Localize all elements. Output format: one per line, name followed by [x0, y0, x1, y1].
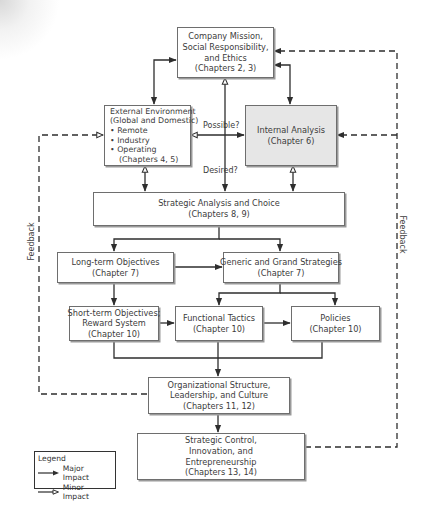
minor-arrow-icon	[38, 489, 60, 495]
node-text: Internal Analysis	[257, 125, 325, 136]
feedback-label-right: Feedback	[398, 215, 407, 253]
node-policies: Policies (Chapter 10)	[291, 306, 380, 341]
legend-title: Legend	[38, 454, 112, 464]
node-text: Company Mission,	[188, 31, 263, 42]
node-text: Leadership, and Culture	[170, 390, 268, 401]
node-text: Social Responsibility,	[182, 42, 268, 53]
node-text: Entrepreneurship	[186, 457, 257, 468]
node-text: (Chapter 10)	[309, 324, 361, 335]
node-text: • Industry	[110, 136, 150, 146]
node-text: (Chapter 10)	[88, 329, 140, 340]
edge-label-possible: Possible?	[203, 121, 239, 130]
node-text: Generic and Grand Strategies	[220, 257, 342, 268]
node-text: • Remote	[110, 126, 148, 136]
node-text: Functional Tactics	[183, 313, 255, 324]
node-text: and Ethics	[204, 53, 247, 64]
node-text: (Chapters 4, 5)	[110, 155, 178, 165]
node-text: Strategic Analysis and Choice	[158, 198, 280, 209]
node-text: External Environment	[110, 107, 196, 117]
edge-label-desired: Desired?	[203, 166, 238, 175]
node-text: Reward System	[82, 318, 146, 329]
node-text: (Chapters 11, 12)	[183, 401, 255, 412]
major-arrow-icon	[38, 470, 60, 476]
node-organizational-structure: Organizational Structure, Leadership, an…	[148, 377, 290, 414]
node-text: (Chapter 6)	[268, 136, 315, 147]
legend-row-major: Major Impact	[38, 464, 112, 483]
legend-row-minor: Minor Impact	[38, 483, 112, 502]
node-company-mission: Company Mission, Social Responsibility, …	[177, 27, 274, 78]
node-text: Long-term Objectives	[72, 257, 160, 268]
node-text: • Operating	[110, 145, 157, 155]
node-text: (Chapter 10)	[193, 324, 245, 335]
node-long-term-objectives: Long-term Objectives (Chapter 7)	[57, 252, 174, 283]
node-strategic-analysis: Strategic Analysis and Choice (Chapters …	[93, 192, 345, 226]
node-text: (Chapters 13, 14)	[185, 467, 257, 478]
node-functional-tactics: Functional Tactics (Chapter 10)	[175, 306, 263, 341]
node-text: Strategic Control,	[185, 435, 257, 446]
node-short-term-objectives: Short-term Objectives; Reward System (Ch…	[69, 306, 159, 341]
node-text: (Chapter 7)	[258, 268, 305, 279]
node-internal-analysis: Internal Analysis (Chapter 6)	[245, 105, 337, 166]
legend-minor-label: Minor Impact	[63, 483, 112, 502]
legend-major-label: Major Impact	[63, 464, 112, 483]
node-text: (Global and Domestic)	[110, 116, 198, 126]
legend: Legend Major Impact Minor Impact	[34, 451, 116, 489]
node-external-environment: External Environment (Global and Domesti…	[104, 105, 191, 166]
feedback-label-left: Feedback	[27, 222, 36, 260]
node-text: (Chapter 7)	[92, 268, 139, 279]
node-text: Short-term Objectives;	[68, 308, 161, 319]
node-text: (Chapters 8, 9)	[188, 209, 250, 220]
node-strategic-control: Strategic Control, Innovation, and Entre…	[137, 433, 305, 480]
node-text: Policies	[320, 313, 350, 324]
node-text: (Chapters 2, 3)	[195, 63, 257, 74]
node-generic-grand-strategies: Generic and Grand Strategies (Chapter 7)	[223, 252, 339, 283]
node-text: Organizational Structure,	[168, 380, 271, 391]
node-text: Innovation, and	[189, 446, 253, 457]
